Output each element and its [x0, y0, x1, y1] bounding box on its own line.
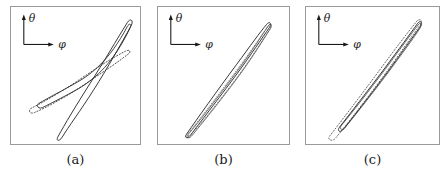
figure-root: θ φ (a) θ φ	[0, 0, 447, 176]
phi-axis-arrowhead	[48, 42, 54, 46]
panel-a: θ φ	[10, 6, 141, 145]
axis-indicator-a: θ φ	[22, 12, 67, 52]
panel-b: θ φ	[157, 6, 290, 145]
theta-axis-label: θ	[324, 12, 331, 25]
axis-indicator-c: θ φ	[317, 12, 362, 52]
theta-axis-arrowhead	[22, 14, 26, 20]
dotted-hysteresis-loop-a	[29, 50, 129, 113]
panel-c-plot: θ φ	[306, 7, 439, 144]
solid-hysteresis-loop-a-inner	[37, 24, 130, 108]
phi-axis-label: φ	[353, 38, 361, 51]
theta-axis-arrowhead	[317, 14, 321, 20]
theta-axis-label: θ	[176, 12, 183, 25]
caption-c: (c)	[305, 149, 440, 171]
axis-indicator-b: θ φ	[169, 12, 214, 52]
phi-axis-arrowhead	[343, 42, 349, 46]
caption-a: (a)	[10, 149, 141, 171]
panel-b-plot: θ φ	[158, 7, 289, 144]
panel-c: θ φ	[305, 6, 440, 145]
phi-axis-label: φ	[205, 38, 213, 51]
phi-axis-arrowhead	[195, 42, 201, 46]
caption-b: (b)	[157, 149, 290, 171]
theta-axis-label: θ	[29, 12, 36, 25]
phi-axis-label: φ	[58, 38, 66, 51]
solid-hysteresis-loop-b	[186, 23, 271, 138]
panel-a-plot: θ φ	[11, 7, 140, 144]
theta-axis-arrowhead	[169, 14, 173, 20]
